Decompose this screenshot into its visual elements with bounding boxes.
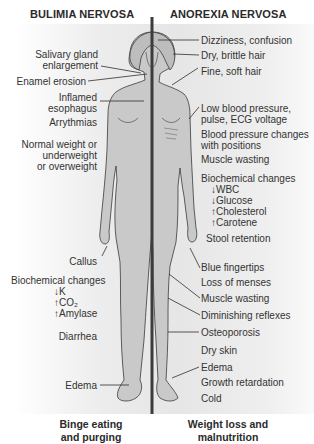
label-anorexia-edema: Edema — [201, 362, 233, 373]
bulimia-caption: Binge eating and purging — [48, 418, 134, 443]
label-callus: Callus — [69, 256, 97, 267]
bulimia-body-half — [100, 32, 152, 401]
label-blue-fingertips: Blue fingertips — [201, 262, 264, 273]
label-bulimia-biochemical: Biochemical changes ↓K ↑CO₂ ↑Amylase — [11, 275, 106, 319]
anorexia-body-half — [152, 32, 197, 401]
label-bp-changes: Blood pressure changes with positions — [201, 129, 309, 151]
label-inflamed-esophagus: Inflamed esophagus — [48, 92, 97, 114]
label-diminishing-reflexes: Diminishing reflexes — [201, 310, 290, 321]
label-stool-retention: Stool retention — [206, 233, 271, 244]
label-weight: Normal weight or underweight or overweig… — [21, 139, 97, 172]
label-diarrhea: Diarrhea — [59, 331, 97, 342]
label-enamel-erosion: Enamel erosion — [17, 76, 86, 87]
anorexia-caption: Weight loss and malnutrition — [178, 418, 278, 443]
label-arrythmias: Arrythmias — [49, 117, 97, 128]
label-low-bp: Low blood pressure, pulse, ECG voltage — [201, 103, 291, 125]
label-loss-of-menses: Loss of menses — [201, 277, 271, 288]
label-fine-hair: Fine, soft hair — [201, 66, 262, 77]
label-cold: Cold — [201, 393, 222, 404]
label-dry-skin: Dry skin — [201, 345, 237, 356]
label-salivary-gland: Salivary gland enlargement — [35, 49, 98, 71]
label-osteoporosis: Osteoporosis — [201, 327, 260, 338]
label-growth-retardation: Growth retardation — [201, 377, 284, 388]
label-dry-hair: Dry, brittle hair — [201, 50, 265, 61]
label-bulimia-edema: Edema — [65, 380, 97, 391]
label-muscle-wasting-upper: Muscle wasting — [201, 154, 269, 165]
label-muscle-wasting-lower: Muscle wasting — [201, 293, 269, 304]
label-anorexia-biochemical: Biochemical changes ↓WBC ↓Glucose ↑Chole… — [201, 173, 296, 228]
label-dizziness: Dizziness, confusion — [201, 35, 292, 46]
